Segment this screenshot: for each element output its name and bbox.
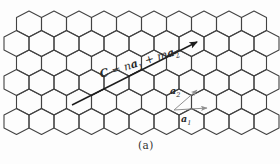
- nanotube-construction-figure: C = na1 + ma2 a1a2 (a): [0, 0, 280, 164]
- hexagon-cell: [42, 11, 67, 37]
- hexagon-cell: [79, 109, 104, 135]
- hexagon-cell: [142, 11, 167, 37]
- hexagon-cell: [29, 70, 54, 96]
- hexagon-cell: [117, 89, 142, 115]
- basis-vectors: a1a2: [170, 85, 207, 127]
- hexagon-cell: [242, 11, 267, 37]
- hexagon-cell: [4, 109, 29, 135]
- hexagon-cell: [42, 50, 67, 76]
- hexagon-cell: [54, 70, 79, 96]
- hexagon-cell: [254, 109, 279, 135]
- hexagon-cell: [67, 50, 92, 76]
- hexagon-cell: [29, 109, 54, 135]
- basis-vector-a1-arrow: [174, 108, 207, 110]
- hexagon-cell: [17, 89, 42, 115]
- hexagon-cell: [104, 31, 129, 57]
- hexagon-cell: [254, 31, 279, 57]
- hexagon-cell: [117, 11, 142, 37]
- hexagon-cell: [192, 89, 217, 115]
- hexagon-cell: [167, 11, 192, 37]
- hexagon-cell: [42, 89, 67, 115]
- hexagon-cell: [229, 31, 254, 57]
- hexagon-cell: [254, 70, 279, 96]
- hexagon-cell: [92, 11, 117, 37]
- hexagon-cell: [79, 31, 104, 57]
- hexagon-cell: [4, 31, 29, 57]
- hexagon-cell: [217, 89, 242, 115]
- hexagon-cell: [29, 31, 54, 57]
- basis-vector-a1-label: a1: [181, 113, 191, 127]
- hexagon-cell: [204, 70, 229, 96]
- chiral-vector-formula-text: C = na1 + ma2: [98, 44, 181, 82]
- honeycomb-lattice: [4, 11, 279, 135]
- figure-caption: (a): [131, 139, 161, 151]
- hexagon-cell: [229, 109, 254, 135]
- hexagon-cell: [54, 31, 79, 57]
- hexagon-cell: [129, 70, 154, 96]
- hexagon-cell: [154, 109, 179, 135]
- hexagon-cell: [67, 11, 92, 37]
- hexagon-cell: [192, 50, 217, 76]
- hexagon-cell: [204, 109, 229, 135]
- hexagon-cell: [192, 11, 217, 37]
- hexagon-cell: [204, 31, 229, 57]
- hexagon-cell: [17, 11, 42, 37]
- hexagon-cell: [229, 70, 254, 96]
- hexagon-cell: [217, 11, 242, 37]
- hexagon-cell: [179, 70, 204, 96]
- hexagon-cell: [242, 50, 267, 76]
- hexagon-cell: [129, 109, 154, 135]
- chiral-vector-formula: C = na1 + ma2: [98, 44, 181, 82]
- hexagon-cell: [54, 109, 79, 135]
- hexagon-cell: [217, 50, 242, 76]
- hexagon-cell: [242, 89, 267, 115]
- hexagon-cell: [4, 70, 29, 96]
- hexagon-cell: [17, 50, 42, 76]
- hexagon-cell: [142, 89, 167, 115]
- hexagon-cell: [104, 109, 129, 135]
- hexagon-cell: [179, 31, 204, 57]
